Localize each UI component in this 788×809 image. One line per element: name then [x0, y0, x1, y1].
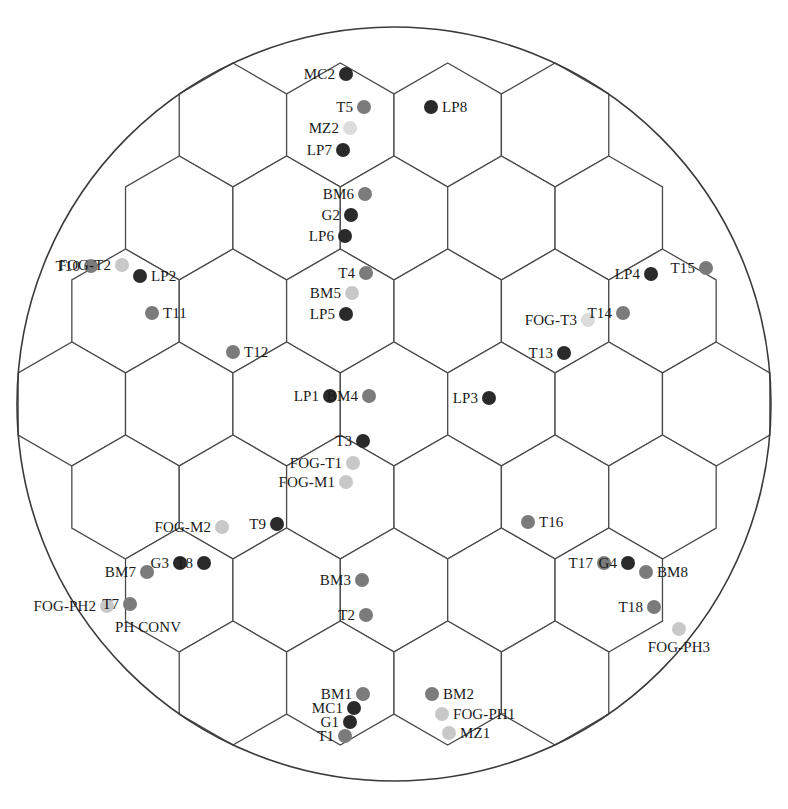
- marker-dot-mc2[interactable]: [339, 67, 353, 81]
- marker-dot-lp4[interactable]: [644, 267, 658, 281]
- marker-label-g3: G3: [150, 556, 169, 571]
- marker-label-t14: T14: [588, 306, 612, 321]
- marker-label-fog-m1: FOG-M1: [279, 475, 335, 490]
- marker-label-lp8: LP8: [442, 100, 467, 115]
- marker-dot-g2[interactable]: [344, 208, 358, 222]
- marker-dot-t12[interactable]: [226, 345, 240, 359]
- marker-label-lp1: LP1: [294, 389, 319, 404]
- marker-label-lp6: LP6: [309, 229, 334, 244]
- marker-label-bm6: BM6: [323, 187, 354, 202]
- marker-label-mz2: MZ2: [309, 121, 339, 136]
- marker-dot-bm3[interactable]: [355, 573, 369, 587]
- marker-dot-t4[interactable]: [359, 266, 373, 280]
- marker-label-mc2: MC2: [304, 67, 335, 82]
- marker-dot-fog-t2[interactable]: [115, 258, 129, 272]
- marker-label-fog-m2: FOG-M2: [155, 520, 211, 535]
- marker-label-fog-ph2: FOG-PH2: [34, 599, 96, 614]
- marker-label-mz1: MZ1: [460, 726, 490, 741]
- marker-dot-t1[interactable]: [338, 729, 352, 743]
- marker-dot-bm6[interactable]: [358, 187, 372, 201]
- marker-label-t16: T16: [539, 515, 563, 530]
- marker-label-t4: T4: [338, 266, 355, 281]
- marker-dot-fog-ph3[interactable]: [672, 622, 686, 636]
- marker-dot-t2[interactable]: [359, 608, 373, 622]
- marker-dot-lp2[interactable]: [133, 269, 147, 283]
- marker-dot-mz1[interactable]: [442, 726, 456, 740]
- marker-label-fog-ph3: FOG-PH3: [648, 640, 710, 655]
- marker-label-t5: T5: [336, 100, 353, 115]
- marker-label-g4: G4: [598, 556, 617, 571]
- marker-label-ph-conv: PH CONV: [115, 620, 181, 635]
- marker-label-bm4: BM4: [327, 389, 358, 404]
- marker-dot-mc1[interactable]: [347, 701, 361, 715]
- marker-label-t1: T1: [317, 729, 334, 744]
- marker-dot-bm4[interactable]: [362, 389, 376, 403]
- marker-dot-bm1[interactable]: [356, 687, 370, 701]
- marker-dot-fog-m1[interactable]: [339, 475, 353, 489]
- marker-label-t10: T10: [56, 259, 80, 274]
- marker-label-t18: T18: [619, 600, 643, 615]
- marker-dot-t9[interactable]: [270, 517, 284, 531]
- marker-label-lp4: LP4: [615, 267, 640, 282]
- marker-dot-lp6[interactable]: [338, 229, 352, 243]
- marker-dot-fog-t1[interactable]: [346, 456, 360, 470]
- marker-dot-mz2[interactable]: [343, 121, 357, 135]
- marker-label-bm5: BM5: [310, 286, 341, 301]
- marker-dot-lp5[interactable]: [339, 307, 353, 321]
- marker-label-lp3: LP3: [453, 391, 478, 406]
- marker-dot-fog-ph1[interactable]: [435, 707, 449, 721]
- marker-label-t17: T17: [569, 556, 593, 571]
- marker-label-t3: T3: [335, 434, 352, 449]
- marker-dot-t13[interactable]: [557, 346, 571, 360]
- marker-dot-g4[interactable]: [621, 556, 635, 570]
- marker-dot-bm5[interactable]: [345, 286, 359, 300]
- marker-dot-t7[interactable]: [123, 597, 137, 611]
- marker-dot-t14[interactable]: [616, 306, 630, 320]
- marker-label-g2: G2: [321, 208, 340, 223]
- marker-label-t11: T11: [163, 306, 187, 321]
- marker-dot-lp8[interactable]: [424, 100, 438, 114]
- marker-label-t13: T13: [529, 346, 553, 361]
- marker-dot-bm8[interactable]: [639, 565, 653, 579]
- marker-label-bm8: BM8: [657, 565, 688, 580]
- marker-label-t12: T12: [244, 345, 268, 360]
- marker-label-t8: T8: [176, 556, 193, 571]
- marker-label-bm7: BM7: [105, 565, 136, 580]
- marker-label-lp2: LP2: [151, 269, 176, 284]
- marker-dot-t18[interactable]: [647, 600, 661, 614]
- marker-dot-t11[interactable]: [145, 306, 159, 320]
- hex-grid-diagram: [0, 0, 788, 809]
- marker-label-t7: T7: [102, 597, 119, 612]
- marker-label-bm2: BM2: [443, 687, 474, 702]
- marker-label-fog-t3: FOG-T3: [525, 313, 577, 328]
- marker-label-t2: T2: [338, 608, 355, 623]
- marker-label-fog-ph1: FOG-PH1: [453, 707, 515, 722]
- marker-dot-fog-m2[interactable]: [215, 520, 229, 534]
- figure-canvas: MC2T5LP8MZ2LP7BM6G2LP6FOG-T2T10LP2T4LP4T…: [0, 0, 788, 809]
- marker-dot-g1[interactable]: [343, 715, 357, 729]
- marker-dot-t8[interactable]: [197, 556, 211, 570]
- marker-label-lp5: LP5: [310, 307, 335, 322]
- marker-dot-t3[interactable]: [356, 434, 370, 448]
- marker-dot-t15[interactable]: [699, 261, 713, 275]
- marker-dot-bm2[interactable]: [425, 687, 439, 701]
- marker-dot-t5[interactable]: [357, 100, 371, 114]
- marker-label-lp7: LP7: [307, 143, 332, 158]
- marker-dot-t16[interactable]: [521, 515, 535, 529]
- marker-label-t9: T9: [249, 517, 266, 532]
- marker-label-t15: T15: [671, 261, 695, 276]
- marker-dot-lp7[interactable]: [336, 143, 350, 157]
- marker-label-fog-t1: FOG-T1: [290, 456, 342, 471]
- marker-dot-lp3[interactable]: [482, 391, 496, 405]
- marker-label-bm3: BM3: [320, 573, 351, 588]
